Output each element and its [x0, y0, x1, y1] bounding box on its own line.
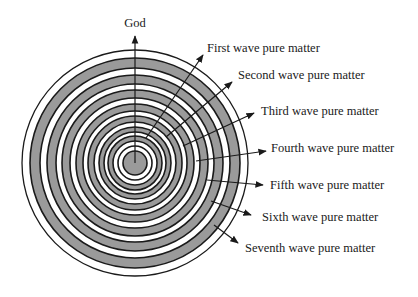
wave-diagram: God First wave pure matterSecond wave pu…	[0, 0, 418, 297]
wave-label: Sixth wave pure matter	[262, 210, 379, 224]
wave-label: Fifth wave pure matter	[270, 178, 385, 192]
wave-label: Second wave pure matter	[238, 68, 366, 82]
wave-label: First wave pure matter	[207, 41, 321, 55]
diagram-canvas: God First wave pure matterSecond wave pu…	[0, 0, 418, 297]
wave-label: Fourth wave pure matter	[271, 141, 395, 155]
wave-label: Third wave pure matter	[261, 104, 379, 118]
god-label: God	[124, 16, 146, 30]
wave-label: Seventh wave pure matter	[245, 241, 376, 255]
